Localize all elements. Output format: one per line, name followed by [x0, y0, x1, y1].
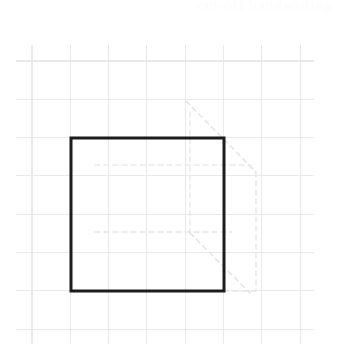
paper-background: [0, 0, 347, 345]
drawing-canvas: cut-off handwriting: [0, 0, 347, 345]
grid-paper-figure: [0, 0, 347, 345]
